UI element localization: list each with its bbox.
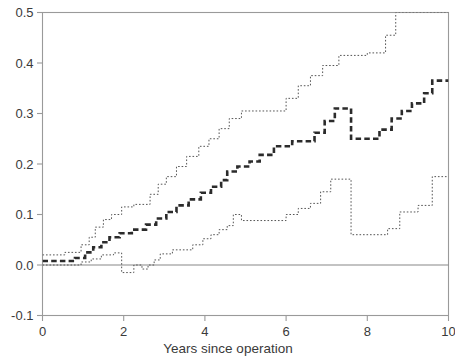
x-tick-label: 8 <box>364 324 371 339</box>
figure-container: 0246810 -0.10.00.10.20.30.40.5 Years sin… <box>0 0 455 363</box>
y-tick-label: 0.5 <box>15 5 33 20</box>
x-axis-title: Years since operation <box>163 341 292 356</box>
x-tick-label: 10 <box>441 324 455 339</box>
survival-curve-chart: 0246810 -0.10.00.10.20.30.40.5 Years sin… <box>0 0 455 363</box>
y-tick-label: 0.3 <box>15 106 33 121</box>
x-tick-label: 6 <box>282 324 289 339</box>
x-tick-label: 4 <box>201 324 208 339</box>
chart-background <box>0 0 455 363</box>
y-tick-label: 0.0 <box>15 258 33 273</box>
x-tick-label: 2 <box>120 324 127 339</box>
y-tick-label: 0.1 <box>15 207 33 222</box>
y-tick-label: -0.1 <box>11 308 33 323</box>
y-tick-label: 0.2 <box>15 157 33 172</box>
x-tick-label: 0 <box>39 324 46 339</box>
y-tick-label: 0.4 <box>15 56 33 71</box>
